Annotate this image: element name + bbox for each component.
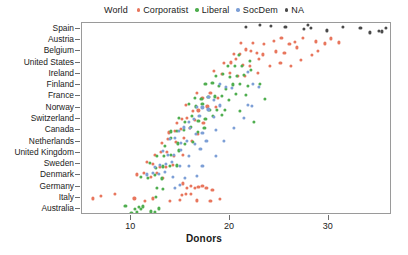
- y-axis-label: Ireland: [48, 68, 74, 78]
- y-axis-tick: [75, 107, 80, 108]
- scatter-point: [182, 129, 185, 132]
- scatter-point: [171, 176, 174, 179]
- y-axis-label: United Kingdom: [14, 147, 74, 157]
- scatter-points-layer: [82, 23, 390, 213]
- legend-item-liberal[interactable]: Liberal: [195, 5, 229, 15]
- y-axis-tick: [75, 163, 80, 164]
- scatter-point: [183, 143, 186, 146]
- scatter-point: [213, 98, 216, 101]
- scatter-point: [162, 154, 165, 157]
- legend-label-socdem: SocDem: [243, 5, 278, 15]
- scatter-point: [230, 86, 233, 89]
- scatter-point: [384, 27, 387, 30]
- scatter-point: [203, 126, 206, 129]
- y-axis-tick: [75, 208, 80, 209]
- scatter-point: [219, 104, 222, 107]
- x-axis-tick-label: 10: [125, 221, 135, 231]
- scatter-point: [244, 93, 247, 96]
- legend-title: World: [104, 5, 128, 15]
- scatter-point: [249, 68, 252, 71]
- scatter-point: [136, 211, 139, 213]
- scatter-point: [140, 175, 143, 178]
- scatter-point: [274, 50, 277, 53]
- scatter-point: [229, 61, 232, 64]
- x-axis-ticks: [81, 215, 391, 220]
- scatter-point: [248, 64, 251, 67]
- scatter-point: [211, 189, 214, 192]
- legend-label-liberal: Liberal: [202, 5, 230, 15]
- scatter-point: [251, 41, 254, 44]
- scatter-point: [223, 139, 226, 142]
- scatter-point: [303, 27, 306, 30]
- scatter-point: [168, 199, 171, 202]
- scatter-point: [177, 129, 180, 132]
- y-axis-tick: [75, 39, 80, 40]
- scatter-point: [242, 116, 245, 119]
- scatter-point: [224, 108, 227, 111]
- scatter-point: [215, 75, 218, 78]
- scatter-point: [258, 23, 261, 26]
- scatter-point: [222, 72, 225, 75]
- scatter-point: [178, 199, 181, 202]
- scatter-point: [157, 207, 160, 210]
- scatter-point: [168, 164, 171, 167]
- scatter-point: [144, 199, 147, 202]
- scatter-point: [187, 121, 190, 124]
- legend-swatch-liberal: [195, 8, 198, 11]
- scatter-point: [178, 183, 181, 186]
- y-axis-label: Germany: [40, 181, 74, 191]
- y-axis-tick: [75, 186, 80, 187]
- scatter-point: [133, 197, 136, 200]
- scatter-point: [244, 48, 247, 51]
- y-axis-label: Denmark: [40, 169, 74, 179]
- scatter-point: [251, 83, 254, 86]
- scatter-point: [155, 154, 158, 157]
- scatter-point: [113, 193, 116, 196]
- scatter-point: [181, 154, 184, 157]
- scatter-point: [184, 193, 187, 196]
- scatter-point: [187, 102, 190, 105]
- scatter-point: [316, 50, 319, 53]
- scatter-point: [246, 103, 249, 106]
- y-axis-tick: [75, 118, 80, 119]
- scatter-point: [189, 184, 192, 187]
- scatter-point: [209, 199, 212, 202]
- legend-item-socdem[interactable]: SocDem: [236, 5, 278, 15]
- scatter-point: [228, 75, 231, 78]
- y-axis-label: Austria: [48, 34, 74, 44]
- legend-item-corporatist[interactable]: Corporatist: [137, 5, 189, 15]
- legend-swatch-na: [285, 8, 288, 11]
- scatter-point: [244, 25, 247, 28]
- scatter-point: [256, 71, 259, 74]
- scatter-chart-figure: World Corporatist Liberal SocDem NA Spai…: [0, 0, 408, 255]
- y-axis-tick: [75, 197, 80, 198]
- y-axis-labels: SpainAustriaBelgiumUnited StatesIrelandF…: [0, 22, 74, 214]
- y-axis-tick: [75, 95, 80, 96]
- scatter-point: [173, 187, 176, 190]
- scatter-point: [183, 176, 186, 179]
- scatter-point: [240, 64, 243, 67]
- scatter-point: [221, 94, 224, 97]
- scatter-point: [261, 53, 264, 56]
- scatter-point: [239, 42, 242, 45]
- y-axis-label: Belgium: [44, 45, 74, 55]
- scatter-point: [269, 24, 272, 27]
- scatter-point: [238, 109, 241, 112]
- scatter-point: [200, 97, 203, 100]
- scatter-point: [130, 212, 133, 213]
- y-axis-label: Finland: [47, 79, 74, 89]
- scatter-point: [136, 173, 139, 176]
- scatter-point: [279, 61, 282, 64]
- scatter-point: [163, 144, 166, 147]
- y-axis-label: Netherlands: [29, 136, 74, 146]
- legend-label-corporatist: Corporatist: [143, 5, 188, 15]
- scatter-point: [140, 207, 143, 210]
- legend-item-na[interactable]: NA: [285, 5, 304, 15]
- scatter-point: [209, 91, 212, 94]
- y-axis-tick: [75, 84, 80, 85]
- scatter-point: [238, 82, 241, 85]
- y-axis-tick: [75, 174, 80, 175]
- scatter-point: [175, 121, 178, 124]
- scatter-point: [262, 42, 265, 45]
- scatter-point: [310, 54, 313, 57]
